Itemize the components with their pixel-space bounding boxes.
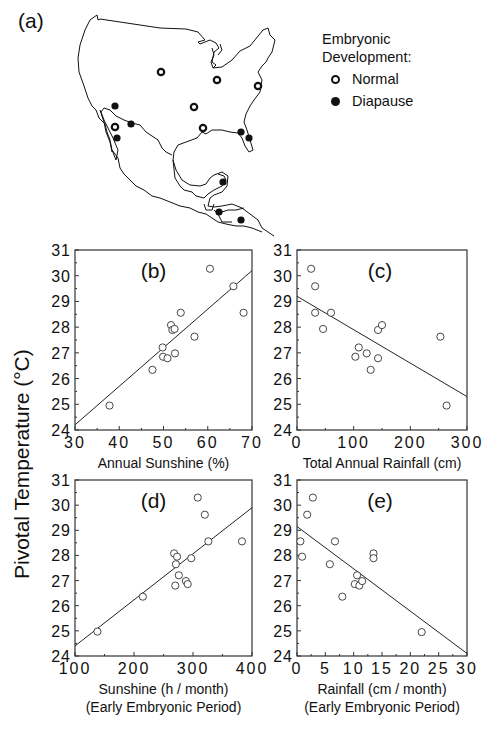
x-tick-label: 25 [428, 660, 450, 677]
y-tick-label: 30 [273, 497, 293, 514]
y-tick-label: 28 [273, 547, 293, 564]
panel-label: (b) [141, 259, 167, 282]
x-tick-label: 100 [337, 434, 370, 451]
data-point [319, 325, 326, 332]
panel-label: (d) [141, 489, 167, 512]
y-tick-label: 29 [51, 293, 71, 310]
x-tick-label: 100 [59, 660, 92, 677]
x-tick-label: 30 [64, 434, 86, 451]
x-tick-label: 300 [177, 660, 210, 677]
data-point [308, 265, 315, 272]
data-point [175, 572, 182, 579]
data-point [172, 561, 179, 568]
y-tick-label: 26 [51, 598, 71, 615]
data-point [159, 344, 166, 351]
y-tick-label: 31 [273, 472, 293, 489]
regression-line [297, 296, 467, 396]
data-point [326, 561, 333, 568]
data-point [304, 511, 311, 518]
data-point [171, 350, 178, 357]
data-point [238, 538, 245, 545]
y-tick-label: 25 [273, 623, 293, 640]
scatter-panel-b: 24252627282930313040506070Annual Sunshin… [51, 242, 263, 471]
data-point [352, 353, 359, 360]
scatter-panel-c: 24252627282930310100200300Total Annual R… [273, 242, 483, 471]
data-point [437, 333, 444, 340]
data-point [312, 283, 319, 290]
y-tick-label: 30 [51, 268, 71, 285]
data-point [418, 629, 425, 636]
data-point [339, 593, 346, 600]
x-axis-label: Sunshine (h / month) [99, 681, 229, 697]
y-tick-label: 24 [273, 422, 293, 439]
data-point [94, 628, 101, 635]
y-tick-label: 26 [273, 598, 293, 615]
x-tick-label: 70 [241, 434, 263, 451]
data-point [297, 538, 304, 545]
data-point [205, 538, 212, 545]
scatter-panels: 24252627282930313040506070Annual Sunshin… [0, 0, 499, 731]
x-tick-label: 30 [456, 660, 478, 677]
data-point [359, 577, 366, 584]
data-point [309, 494, 316, 501]
data-point [149, 366, 156, 373]
x-axis-label-2: (Early Embryonic Period) [86, 699, 242, 715]
y-tick-label: 26 [51, 371, 71, 388]
data-point [240, 309, 247, 316]
data-point [327, 309, 334, 316]
x-axis-label: Rainfall (cm / month) [317, 681, 446, 697]
regression-line [75, 508, 252, 646]
y-tick-label: 25 [51, 623, 71, 640]
x-tick-label: 15 [371, 660, 393, 677]
data-point [443, 402, 450, 409]
scatter-panel-d: 2425262728293031100200300400Sunshine (h … [51, 472, 268, 715]
data-point [206, 265, 213, 272]
data-point [171, 325, 178, 332]
data-point [370, 555, 377, 562]
x-tick-label: 60 [197, 434, 219, 451]
data-point [363, 350, 370, 357]
data-point [139, 593, 146, 600]
data-point [194, 494, 201, 501]
panel-label: (c) [368, 259, 393, 282]
y-tick-label: 24 [273, 648, 293, 665]
regression-line [297, 527, 467, 654]
y-tick-label: 27 [51, 573, 71, 590]
x-tick-label: 400 [236, 660, 269, 677]
x-tick-label: 200 [118, 660, 151, 677]
data-point [191, 333, 198, 340]
scatter-panel-e: 2425262728293031051015202530Rainfall (cm… [273, 472, 478, 715]
x-axis-label: Total Annual Rainfall (cm) [303, 455, 462, 471]
y-tick-label: 27 [51, 345, 71, 362]
y-tick-label: 28 [51, 547, 71, 564]
data-point [164, 355, 171, 362]
data-point [378, 321, 385, 328]
y-tick-label: 28 [51, 319, 71, 336]
y-tick-label: 29 [273, 522, 293, 539]
x-tick-label: 200 [394, 434, 427, 451]
data-point [184, 580, 191, 587]
y-tick-label: 28 [273, 319, 293, 336]
x-tick-label: 0 [292, 660, 303, 677]
panel-label: (e) [367, 489, 393, 512]
y-tick-label: 29 [273, 293, 293, 310]
data-point [188, 555, 195, 562]
x-tick-label: 20 [399, 660, 421, 677]
y-tick-label: 27 [273, 345, 293, 362]
y-tick-label: 31 [51, 242, 71, 259]
y-tick-label: 26 [273, 371, 293, 388]
x-tick-label: 40 [108, 434, 130, 451]
data-point [353, 572, 360, 579]
data-point [106, 402, 113, 409]
x-axis-label-2: (Early Embryonic Period) [304, 699, 460, 715]
x-tick-label: 10 [343, 660, 365, 677]
x-tick-label: 300 [451, 434, 484, 451]
data-point [299, 553, 306, 560]
data-point [177, 309, 184, 316]
x-tick-label: 5 [320, 660, 331, 677]
y-tick-label: 29 [51, 522, 71, 539]
data-point [367, 366, 374, 373]
y-tick-label: 25 [273, 396, 293, 413]
data-point [374, 355, 381, 362]
x-tick-label: 50 [153, 434, 175, 451]
